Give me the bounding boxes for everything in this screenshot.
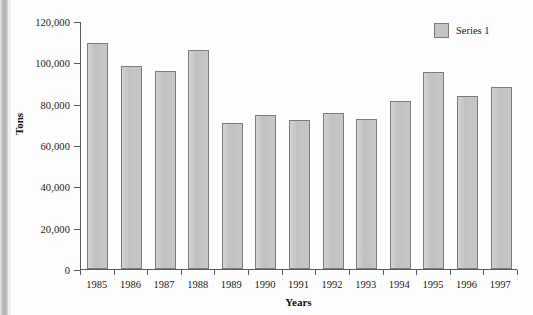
x-tick-label-1986: 1986 [120,279,141,290]
y-tick: 20,000 [74,229,80,230]
x-tick-label-1985: 1985 [86,279,107,290]
legend-label-series-1: Series 1 [456,25,490,36]
y-tick: 80,000 [74,105,80,106]
y-tick: 40,000 [74,187,80,188]
bar-1992 [323,113,344,269]
bar-1985 [87,43,108,269]
scan-edge-artifact-light [8,0,11,315]
x-tick [214,270,215,275]
legend-swatch-series-1 [434,23,449,38]
chart-figure: Tons 020,00040,00060,00080,000100,000120… [0,0,533,315]
bar-1986 [121,66,142,269]
x-tick-label-1993: 1993 [355,279,376,290]
x-tick [282,270,283,275]
y-tick-label: 40,000 [41,182,70,193]
bar-1989 [222,123,243,269]
x-tick-label-1992: 1992 [322,279,343,290]
y-axis-title: Tons [13,113,25,135]
x-tick [450,270,451,275]
scan-edge-artifact [0,0,8,315]
x-axis-line [80,269,517,270]
x-tick [517,270,518,275]
y-tick: 100,000 [74,63,80,64]
x-tick [114,270,115,275]
x-tick-label-1989: 1989 [221,279,242,290]
x-tick [248,270,249,275]
bar-1997 [491,87,512,269]
bar-1993 [356,119,377,269]
x-tick [416,270,417,275]
x-tick [383,270,384,275]
y-tick-label: 20,000 [41,223,70,234]
x-tick-label-1996: 1996 [456,279,477,290]
bar-1990 [255,115,276,269]
bar-1995 [423,72,444,269]
bar-1988 [188,50,209,269]
x-tick [315,270,316,275]
x-tick [181,270,182,275]
bar-1996 [457,96,478,269]
chart-legend: Series 1 [434,23,490,38]
x-tick-label-1990: 1990 [254,279,275,290]
bar-1994 [390,101,411,269]
x-tick-label-1988: 1988 [187,279,208,290]
plot-area: 020,00040,00060,00080,000100,000120,000 … [80,22,517,270]
x-tick-label-1995: 1995 [422,279,443,290]
y-tick: 120,000 [74,22,80,23]
x-tick-origin [80,270,81,275]
y-tick-label: 0 [65,265,70,276]
y-tick-label: 120,000 [35,17,70,28]
x-tick-label-1991: 1991 [288,279,309,290]
x-tick-label-1994: 1994 [389,279,410,290]
x-tick [349,270,350,275]
bar-1991 [289,120,310,269]
x-tick [483,270,484,275]
x-axis-title: Years [80,296,517,308]
x-tick-label-1987: 1987 [154,279,175,290]
bar-group [81,22,517,269]
y-tick: 60,000 [74,146,80,147]
bar-1987 [155,71,176,269]
y-tick-label: 60,000 [41,141,70,152]
x-tick [147,270,148,275]
y-tick-label: 80,000 [41,99,70,110]
y-tick-label: 100,000 [35,58,70,69]
x-tick-label-1997: 1997 [490,279,511,290]
